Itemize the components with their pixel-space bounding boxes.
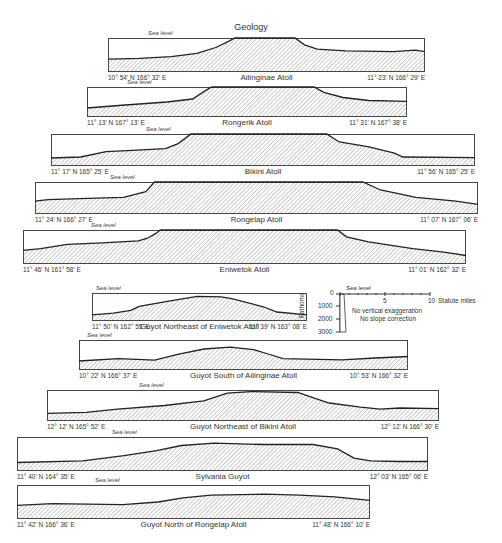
cross-section-graphic <box>92 293 307 321</box>
end-coordinate: 12° 03' N 165° 06' E <box>370 473 428 480</box>
sea-level-label: Sea level <box>146 126 171 132</box>
cross-section-graphic <box>17 437 428 471</box>
end-coordinate: 12° 12' N 166° 30' E <box>381 423 439 430</box>
sea-level-label: Sea level <box>139 382 164 388</box>
note-slope-correction: No slope correction <box>360 315 416 322</box>
profile-9: Sea level11° 42' N 166° 36' EGuyot North… <box>17 485 370 533</box>
depth-axis-label: Fathoms <box>298 293 305 318</box>
sea-level-label: Sea level <box>87 332 112 338</box>
depth-tick-1000: 1000 <box>318 302 332 309</box>
profile-8: Sea level11° 40' N 164° 35' ESylvania Gu… <box>17 437 428 485</box>
sea-level-label: Sea level <box>148 30 173 36</box>
cross-section-graphic <box>79 340 408 370</box>
profile-name: Sylvania Guyot <box>17 472 428 481</box>
sea-level-label: Sea level <box>110 174 135 180</box>
end-coordinate: 11° 07' N 167° 06' E <box>420 216 478 223</box>
end-coordinate: 11° 48' N 166° 10' E <box>312 521 370 528</box>
cross-section-graphic <box>17 485 370 519</box>
end-coordinate: 11° 23' N 166° 29' E <box>367 74 425 81</box>
cross-section-graphic <box>51 134 475 166</box>
profile-1: Sea level11° 13' N 167° 13' ERongerik At… <box>87 87 407 131</box>
cross-section-graphic <box>23 230 466 264</box>
depth-tick-0: 0 <box>330 289 334 296</box>
profile-6: Sea level10° 22' N 166° 37' EGuyot South… <box>79 340 408 384</box>
sea-level-label: Sea level <box>127 79 152 85</box>
cross-section-graphic <box>87 87 407 117</box>
cross-section-graphic <box>35 182 478 214</box>
sea-level-label: Sea level <box>96 285 121 291</box>
sea-level-label: Sea level <box>95 477 120 483</box>
end-coordinate: 10° 53' N 166° 32' E <box>350 372 408 379</box>
sea-level-label: Sea level <box>91 222 116 228</box>
profile-5: Sea level11° 50' N 162° 55' EGuyot North… <box>92 293 307 335</box>
distance-tick-5: 5 <box>383 297 387 304</box>
figure-title: Geology <box>0 22 502 32</box>
end-coordinate: 11° 56' N 165° 25' E <box>417 168 475 175</box>
depth-tick-3000: 3000 <box>318 328 332 335</box>
end-coordinate: 11° 31' N 167° 38' E <box>349 119 407 126</box>
distance-unit: Statute miles <box>438 297 476 304</box>
profile-0: Sea level10° 54' N 166° 32' EAilinginae … <box>108 38 425 86</box>
end-coordinate: 11° 39' N 163° 08' E <box>249 323 307 330</box>
profile-4: Sea level11° 46' N 161° 58' EEniwetok At… <box>23 230 466 278</box>
profile-7: Sea level12° 12' N 165° 52' EGuyot North… <box>47 390 439 435</box>
legend-sea-level: Sea level <box>346 285 371 291</box>
profile-name: Eniwetok Atoll <box>23 265 466 274</box>
cross-section-graphic <box>47 390 439 421</box>
cross-section-graphic <box>108 38 425 72</box>
depth-tick-2000: 2000 <box>318 315 332 322</box>
end-coordinate: 11° 01' N 162° 32' E <box>408 266 466 273</box>
note-vertical-exaggeration: No vertical exaggeration <box>352 307 422 314</box>
scale-legend: 0 1000 2000 3000 Fathoms Sea level 5 10 … <box>300 280 500 340</box>
sea-level-label: Sea level <box>112 429 137 435</box>
distance-tick-10: 10 <box>428 297 435 304</box>
